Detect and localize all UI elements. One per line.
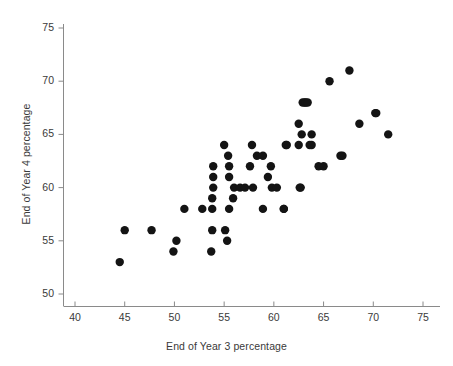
data-point [273,183,281,191]
data-point [180,205,188,213]
x-tick-label: 60 [259,311,289,323]
data-point [259,151,267,159]
data-point [209,183,217,191]
data-point [295,141,303,149]
data-point [223,237,231,245]
data-point [280,205,288,213]
x-tick-label: 45 [110,311,140,323]
tick-marks [59,28,424,307]
data-point [264,173,272,181]
data-point [295,120,303,128]
y-tick-label: 75 [28,21,54,33]
data-point [220,141,228,149]
data-point [307,130,315,138]
data-point [283,141,291,149]
data-point [208,205,216,213]
data-point [221,226,229,234]
data-point [246,162,254,170]
data-point [208,226,216,234]
x-tick-label: 50 [159,311,189,323]
data-point [207,247,215,255]
data-point [319,162,327,170]
data-point [198,205,206,213]
data-point [121,226,129,234]
data-point [303,98,311,106]
data-point [208,194,216,202]
data-point [225,205,233,213]
x-tick-label: 55 [209,311,239,323]
data-point [225,162,233,170]
data-point [297,183,305,191]
data-point [209,173,217,181]
data-point [169,247,177,255]
data-point [384,130,392,138]
x-axis-title: End of Year 3 percentage [0,340,453,352]
data-point [224,151,232,159]
data-point [307,141,315,149]
data-point [248,141,256,149]
data-point-group [116,66,393,266]
x-tick-label: 70 [358,311,388,323]
data-point [116,258,124,266]
data-point [355,120,363,128]
data-point [338,151,346,159]
scatter-plot-figure: 4045505560657075505560657075 End of Year… [0,0,453,366]
x-tick-label: 75 [408,311,438,323]
data-point [298,130,306,138]
data-point [372,109,380,117]
data-point [147,226,155,234]
data-point [267,162,275,170]
data-point [249,183,257,191]
y-tick-label: 50 [28,287,54,299]
x-tick-label: 65 [309,311,339,323]
data-point [345,66,353,74]
data-point [225,173,233,181]
data-point [259,205,267,213]
data-point [172,237,180,245]
data-point [241,183,249,191]
data-point [209,162,217,170]
data-point [325,77,333,85]
data-point [229,194,237,202]
x-tick-label: 40 [60,311,90,323]
y-axis-title: End of Year 4 percentage [20,54,32,274]
